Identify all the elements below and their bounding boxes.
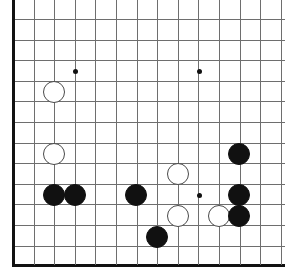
black-stone-6[interactable] [228,184,250,206]
grid-line-vertical [75,0,76,265]
white-stone-5[interactable] [208,205,230,227]
white-stone-4[interactable] [167,205,189,227]
black-stone-3[interactable] [125,184,147,206]
black-stone-4[interactable] [146,226,168,248]
grid-line-vertical [54,0,55,265]
star-point-upper-left [73,69,78,74]
grid-line-vertical [34,0,35,265]
black-stone-1[interactable] [43,184,65,206]
white-stone-1[interactable] [43,81,65,103]
grid-line-vertical [116,0,117,265]
star-point-lower-right [197,193,202,198]
grid-line-vertical [281,0,282,265]
black-stone-5[interactable] [228,143,250,165]
grid-line-vertical [198,0,199,265]
black-stone-7[interactable] [228,205,250,227]
go-board-diagram [0,0,285,279]
board-border-left [12,0,15,267]
board-surface [0,0,285,279]
grid-line-vertical [137,0,138,265]
grid-line-vertical [95,0,96,265]
white-stone-2[interactable] [43,143,65,165]
board-border-bottom [12,264,285,267]
black-stone-2[interactable] [64,184,86,206]
star-point-upper-right [197,69,202,74]
grid-line-vertical [260,0,261,265]
white-stone-3[interactable] [167,163,189,185]
